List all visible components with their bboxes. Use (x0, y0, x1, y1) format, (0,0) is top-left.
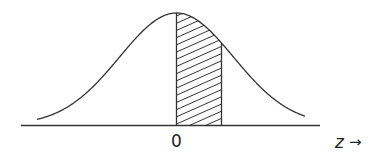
hatch-line (177, 154, 222, 156)
z-axis-label: z (335, 134, 344, 151)
axis-arrow-icon: → (349, 135, 362, 150)
normal-curve-diagram (0, 0, 376, 156)
hatch-line (177, 133, 222, 153)
bell-curve (37, 13, 305, 119)
hatch-line (177, 147, 222, 156)
hatch-line (177, 0, 222, 2)
hatch-line (177, 140, 222, 156)
hatch-line (177, 126, 222, 146)
hatch-lines (177, 0, 222, 156)
hatch-line (177, 0, 222, 9)
center-zero-label: 0 (171, 133, 182, 150)
z-variable: z (335, 132, 344, 152)
